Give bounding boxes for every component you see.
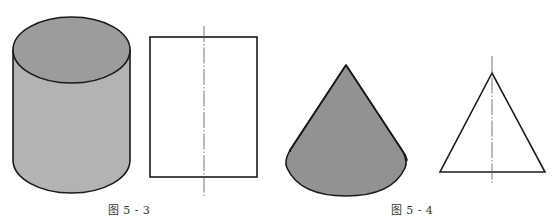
cylinder-projection — [150, 26, 257, 197]
cylinder-solid — [13, 17, 130, 193]
figure-caption-5-4: 图 5 - 4 — [391, 201, 434, 216]
cone-base-arc — [286, 152, 406, 196]
figure-caption-5-3: 图 5 - 3 — [108, 201, 151, 216]
projection-rectangle — [150, 37, 257, 177]
cone-fill-patch — [291, 67, 402, 151]
cone-solid — [286, 65, 407, 196]
diagram-canvas — [0, 0, 557, 216]
cylinder-top-face — [13, 17, 130, 83]
cone-projection — [440, 56, 545, 184]
projection-triangle — [440, 73, 545, 172]
